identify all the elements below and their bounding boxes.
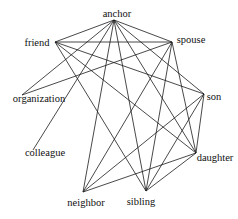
edge-daughter-neighbor	[83, 153, 196, 192]
node-organization: organization	[13, 93, 66, 104]
edge-anchor-friend	[55, 20, 114, 42]
node-colleague: colleague	[25, 147, 66, 158]
node-anchor: anchor	[103, 8, 132, 19]
edge-spouse-daughter	[172, 42, 196, 153]
node-friend: friend	[24, 37, 50, 48]
node-son: son	[207, 91, 222, 102]
node-sibling: sibling	[127, 196, 156, 207]
edge-anchor-spouse	[114, 20, 172, 42]
edge-spouse-organization	[22, 42, 172, 95]
node-neighbor: neighbor	[67, 197, 105, 208]
edge-anchor-son	[114, 20, 204, 94]
edge-daughter-sibling	[146, 153, 196, 191]
node-daughter: daughter	[197, 152, 234, 163]
node-spouse: spouse	[177, 34, 206, 45]
edge-son-daughter	[196, 94, 204, 153]
network-graph: anchor friend spouse organization son co…	[0, 0, 238, 219]
